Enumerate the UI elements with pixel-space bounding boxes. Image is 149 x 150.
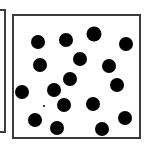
scatter-dot xyxy=(119,37,133,51)
scatter-dot xyxy=(110,78,124,92)
scatter-dot xyxy=(95,122,109,136)
dot-pattern-panel xyxy=(12,14,141,139)
adjacent-panel-sliver xyxy=(0,9,6,133)
figure-root xyxy=(0,0,149,150)
scatter-dot xyxy=(102,59,116,73)
scatter-dot xyxy=(31,35,45,49)
scatter-dot xyxy=(59,33,73,47)
scatter-dot xyxy=(73,52,87,66)
scatter-dot xyxy=(43,105,45,107)
scatter-dot xyxy=(47,83,61,97)
scatter-dot xyxy=(118,111,132,125)
scatter-dot xyxy=(57,98,71,112)
scatter-dot xyxy=(50,121,64,135)
scatter-dot xyxy=(15,85,29,99)
dot-plot-area xyxy=(14,16,139,137)
scatter-dot xyxy=(28,113,42,127)
scatter-dot xyxy=(86,97,100,111)
scatter-dot xyxy=(63,72,77,86)
scatter-dot xyxy=(87,27,102,42)
scatter-dot xyxy=(33,58,47,72)
